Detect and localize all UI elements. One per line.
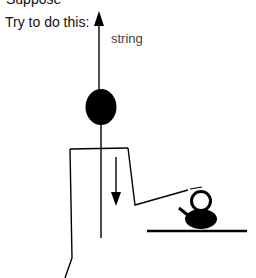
stick-figure-diagram: [0, 0, 256, 278]
left-arm-line: [65, 149, 72, 278]
down-arrow-icon: [111, 157, 121, 206]
head-shape: [86, 89, 117, 125]
shoulders-line: [70, 148, 128, 149]
fingers-line: [190, 187, 202, 189]
up-arrow-icon: [94, 11, 104, 92]
kettle-icon: [179, 192, 217, 230]
right-arm-line: [128, 148, 188, 205]
